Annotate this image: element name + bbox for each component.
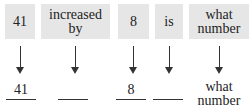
- down-arrow-icon: [165, 46, 174, 74]
- phrase-text: increased by: [41, 8, 110, 36]
- slot-value: 8: [116, 83, 146, 97]
- translation-slot-equals: [153, 80, 183, 102]
- phrase-box-what-number: what number: [189, 4, 249, 39]
- underline: [6, 99, 36, 100]
- phrase-box-increased-by: increased by: [41, 4, 110, 39]
- underline: [116, 99, 146, 100]
- phrase-box-is: is: [155, 4, 183, 39]
- phrase-box-8: 8: [118, 4, 149, 39]
- down-arrow-icon: [129, 46, 138, 74]
- translation-slot-what-number: what number: [192, 78, 246, 108]
- down-arrow-icon: [71, 46, 80, 74]
- underline: [58, 99, 88, 100]
- translation-slot-8: 8: [116, 80, 146, 102]
- phrase-text: 8: [130, 15, 137, 29]
- phrase-text: is: [164, 15, 173, 29]
- down-arrow-icon: [215, 46, 224, 74]
- phrase-text: what number: [189, 8, 249, 36]
- slot-value: 41: [6, 83, 36, 97]
- phrase-box-41: 41: [5, 4, 35, 39]
- down-arrow-icon: [16, 46, 25, 74]
- translation-slot-operator: [58, 80, 88, 102]
- slot-value: what number: [192, 80, 246, 108]
- phrase-text: 41: [13, 15, 27, 29]
- translation-slot-41: 41: [6, 80, 36, 102]
- underline: [153, 99, 183, 100]
